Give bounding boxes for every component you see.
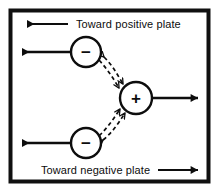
negative-charge-top-sign: − — [81, 43, 91, 62]
diagram-canvas: Toward positive plate − + − Toward negat… — [0, 0, 219, 192]
top-label-text: Toward positive plate — [76, 18, 181, 30]
negative-charge-bottom-sign: − — [81, 134, 91, 153]
positive-charge-center-sign: + — [131, 89, 141, 108]
bottom-label-text: Toward negative plate — [41, 164, 150, 176]
charge-separation-figure: Toward positive plate − + − Toward negat… — [0, 0, 219, 192]
